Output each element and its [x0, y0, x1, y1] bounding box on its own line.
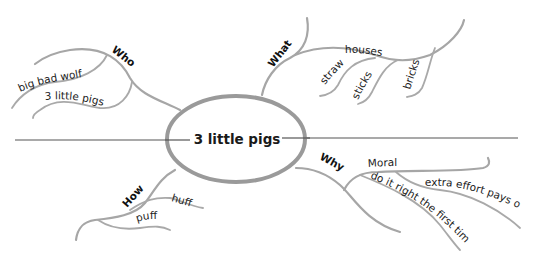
node-moral[interactable]: Moral: [367, 156, 397, 169]
node-3-little-pigs[interactable]: 3 little pigs: [44, 89, 105, 107]
central-topic-label: 3 little pigs: [194, 131, 281, 147]
node-bricks[interactable]: bricks: [400, 58, 421, 91]
mind-map: 3 little pigs Who What How Why big bad w…: [0, 0, 535, 259]
node-huff[interactable]: huff: [170, 191, 194, 208]
node-straw[interactable]: straw: [317, 56, 346, 86]
node-houses[interactable]: houses: [345, 43, 384, 58]
node-puff[interactable]: puff: [134, 209, 158, 224]
category-why[interactable]: Why: [318, 150, 347, 173]
category-who[interactable]: Who: [110, 43, 138, 69]
branch-why: [296, 158, 520, 250]
